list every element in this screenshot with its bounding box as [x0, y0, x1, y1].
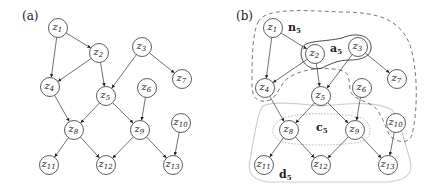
set-label-d5: d5	[279, 168, 292, 182]
edge-z2-z5	[316, 63, 319, 86]
node-z6: z6	[353, 79, 372, 98]
node-z7: z7	[173, 70, 192, 89]
set-label-a5: a5	[330, 42, 342, 56]
node-z3: z3	[133, 38, 152, 57]
edge-z8-z12	[295, 137, 314, 158]
set-label-c5: c5	[316, 121, 328, 135]
node-z4: z4	[41, 78, 60, 97]
node-z9: z9	[346, 121, 365, 140]
edge-z9-z12	[328, 137, 348, 158]
node-z9: z9	[131, 121, 150, 140]
edge-z8-z12	[80, 137, 99, 158]
node-z12: z12	[312, 156, 331, 175]
node-z5: z5	[97, 87, 116, 106]
edge-z10-z13	[175, 132, 179, 155]
node-z12: z12	[97, 156, 116, 175]
edge-z8-z11	[270, 138, 284, 157]
edge-z2-z4	[273, 59, 307, 82]
edge-z9-z13	[147, 137, 167, 158]
node-z8: z8	[65, 121, 84, 140]
edge-z2-z5	[101, 62, 105, 86]
node-z7: z7	[388, 70, 407, 89]
edge-z10-z13	[390, 132, 394, 155]
node-z1: z1	[49, 19, 68, 38]
edge-z9-z12	[113, 137, 133, 158]
node-z11: z11	[255, 156, 274, 175]
node-z5: z5	[312, 87, 331, 106]
edge-z3-z5	[327, 55, 352, 88]
edge-z8-z11	[55, 138, 69, 157]
node-z10: z10	[172, 114, 191, 133]
node-z11: z11	[40, 156, 59, 175]
node-z13: z13	[164, 156, 183, 175]
edge-z3-z5	[112, 55, 136, 88]
node-z13: z13	[379, 156, 398, 175]
node-z2: z2	[90, 44, 109, 63]
node-z10: z10	[387, 114, 406, 133]
edge-z1-z2	[66, 33, 90, 48]
edge-z3-z7	[149, 53, 174, 73]
edge-z5-z9	[328, 103, 348, 123]
edge-z4-z8	[55, 95, 69, 121]
edge-z1-z2	[281, 33, 306, 49]
nodes-layer: z1z2z3z4z5z6z7z8z9z10z11z12z13z1z2z3z4z5…	[40, 19, 407, 175]
edge-z1-z4	[266, 37, 271, 78]
node-z1: z1	[264, 19, 283, 38]
edge-z5-z8	[81, 103, 100, 123]
edge-z3-z7	[365, 53, 389, 73]
edge-z5-z9	[113, 103, 133, 123]
edge-z4-z8	[270, 96, 284, 121]
node-z4: z4	[256, 79, 275, 98]
edge-z1-z4	[51, 37, 56, 77]
node-z2: z2	[306, 45, 325, 64]
edge-z9-z13	[362, 137, 382, 158]
node-z3: z3	[349, 38, 368, 57]
node-z6: z6	[138, 79, 157, 98]
edge-z2-z4	[58, 58, 91, 81]
panel-a-label: (a)	[22, 9, 39, 23]
dag-diagram-canvas: (a) (b) z1z2z3z4z5z6z7z8z9z10z11z12z13z1…	[0, 0, 431, 187]
node-z8: z8	[280, 121, 299, 140]
edge-z5-z8	[296, 103, 315, 123]
edge-z6-z9	[142, 97, 146, 120]
set-label-n5: n5	[288, 21, 301, 35]
panel-b-label: (b)	[236, 9, 253, 23]
